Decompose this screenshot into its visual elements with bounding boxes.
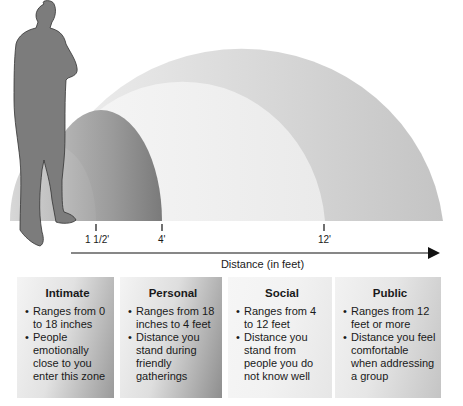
zone-title: Public (343, 287, 437, 300)
zone-title: Personal (128, 287, 218, 300)
tick-label-4ft: 4' (158, 234, 165, 245)
zone-title: Intimate (25, 287, 110, 300)
zone-bullet: Distance you feel comfortable when addre… (343, 331, 437, 383)
zone-bullet: Distance you stand during friendly gathe… (128, 331, 218, 383)
zone-box-public: Public Ranges from 12 feet or more Dista… (335, 277, 441, 398)
zone-bullet: Ranges from 4 to 12 feet (236, 305, 328, 331)
axis-title: Distance (in feet) (0, 258, 463, 270)
tick-label-12ft: 12' (318, 234, 331, 245)
zone-title: Social (236, 287, 328, 300)
zone-box-personal: Personal Ranges from 18 inches to 4 feet… (120, 277, 222, 398)
zone-bullet: Ranges from 18 inches to 4 feet (128, 305, 218, 331)
tick-label-1-5ft: 1 1/2' (85, 234, 109, 245)
zone-bullet: Ranges from 0 to 18 inches (25, 305, 110, 331)
zone-box-social: Social Ranges from 4 to 12 feet Distance… (228, 277, 332, 398)
zone-bullet: Ranges from 12 feet or more (343, 305, 437, 331)
zone-bullet: Distance you stand from people you do no… (236, 331, 328, 383)
zone-bullet: People emotionally close to you enter th… (25, 331, 110, 383)
zone-box-intimate: Intimate Ranges from 0 to 18 inches Peop… (17, 277, 114, 398)
